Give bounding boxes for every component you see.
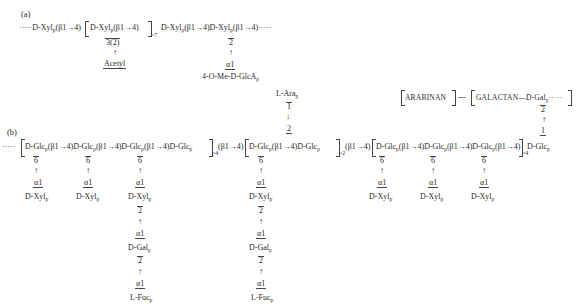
anomer-alpha1: α1 [428,179,438,188]
ara-one: 1 [286,102,292,111]
xylan-chain-start: ·····D-Xylp(β1→4) [19,24,81,34]
anomer-alpha1: α1 [377,179,387,188]
pos6: 6 [258,156,264,165]
bracket-open [471,90,475,106]
arrow-up-icon: ↑ [138,218,142,226]
pos2: 2 [258,256,264,265]
arrow-up-icon: ↑ [380,167,384,175]
anomer-alpha1: α1 [256,280,266,289]
arrow-up-icon: ↑ [259,218,263,226]
arrow-up-icon: ↑ [229,49,233,57]
glca-group: 4-O-Me-D-GlcAp [202,73,259,83]
glc-anomer: 1 [540,127,546,136]
arrow-up-icon: ↑ [542,116,546,124]
pos6: 6 [85,156,91,165]
ara-unit: L-Arap [276,90,298,100]
pos6: 6 [137,156,143,165]
xyl-unit: D-Xylp [249,193,272,203]
pos2: 2 [137,206,143,215]
arrow-up-icon: ↑ [113,49,117,57]
anomer-alpha1: α1 [135,179,145,188]
connector-dash: — [458,93,466,101]
anomer-alpha1: α1 [479,179,489,188]
arrow-up-icon: ↑ [259,167,263,175]
pos6: 6 [430,156,436,165]
anomer-alpha1: α1 [83,179,93,188]
arrow-down-icon: ↓ [286,113,290,121]
backbone-segment-2: D-Glcp(β1→4)D-Glcp [249,143,320,153]
repeat-count: ~7 [151,32,157,38]
fuc-unit: L-Fucp [130,294,152,304]
bracket-open [85,21,89,37]
glca-anomer: α1 [225,61,235,70]
backbone-segment-1: D-Glcp(β1→4)D-Glcp(β1→4)D-Glcp(β1→4)D-Gl… [25,143,192,153]
ara-pos2: 2 [286,125,292,134]
backbone-prefix: ····· [2,143,15,151]
anomer-alpha1: α1 [256,179,266,188]
pos2: 2 [137,256,143,265]
pos6: 6 [481,156,487,165]
xyl-unit: D-Xylp [25,193,48,203]
pos6: 6 [379,156,385,165]
bracket-close [568,90,572,106]
acetyl-group: Acetyl [103,60,126,69]
anomer-alpha1: α1 [135,280,145,289]
glca-position: 2 [228,38,234,47]
panel-b-label: (b) [7,128,17,137]
arabinan-label: ARABINAN [405,93,446,102]
xyl-unit: D-Xylp [471,193,494,203]
anomer-alpha1: α1 [256,230,266,239]
pos6: 6 [33,156,39,165]
arrow-up-icon: ↑ [482,167,486,175]
xyl-unit: D-Xylp [76,193,99,203]
anomer-alpha1: α1 [33,179,43,188]
linkage: (β1→4) [345,143,370,151]
linkage: (β1→4) [218,143,243,151]
panel-a-label: (a) [21,10,30,19]
pos2: 2 [258,206,264,215]
gal-unit: D-Galp [249,244,272,254]
xyl-unit: D-Xylp [128,193,151,203]
gal-unit: D-Galp [128,244,151,254]
arrow-up-icon: ↑ [34,167,38,175]
xyl-unit: D-Xylp [420,193,443,203]
arrow-up-icon: ↑ [138,167,142,175]
galactan-label: GALACTAN—D-Galp····· [476,93,562,103]
fuc-unit: L-Fucp [251,294,273,304]
xylan-chain-end: D-Xylp(β1→4)D-Xylp(β1→4)····· [161,24,272,34]
anomer-alpha1: α1 [135,230,145,239]
acetyl-position: 3(2) [105,38,120,47]
arrow-up-icon: ↑ [86,167,90,175]
bracket-close [452,90,456,106]
backbone-segment-3: D-Glcp(β1→4)D-Glcp(β1→4)D-Glcp(β1→4) [376,143,520,153]
terminal-glc: D-Glcp [527,143,550,153]
gal-position: 2 [540,105,546,114]
arrow-up-icon: ↑ [259,268,263,276]
arrow-up-icon: ↑ [431,167,435,175]
xyl-unit: D-Xylp [369,193,392,203]
xylan-repeat-unit: D-Xylp(β1→4) [90,24,139,34]
arrow-up-icon: ↑ [138,268,142,276]
